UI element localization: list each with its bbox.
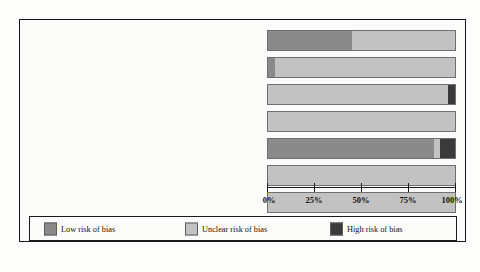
- legend-swatch-low-risk-icon: [44, 222, 57, 235]
- segment-low-risk: [268, 139, 434, 158]
- legend-label: High risk of bias: [347, 224, 403, 233]
- legend-label: Unclear risk of bias: [202, 224, 267, 233]
- axis-tick-label: 75%: [400, 195, 417, 205]
- axis-tick: [408, 183, 409, 192]
- axis-tick: [361, 183, 362, 192]
- segment-unclear-risk: [268, 112, 455, 131]
- segment-low-risk: [268, 31, 352, 50]
- axis-tick: [314, 183, 315, 192]
- segment-low-risk: [268, 58, 275, 77]
- risk-of-bias-figure: Random sequence generation(selection bia…: [0, 0, 480, 272]
- legend: Low risk of bias Unclear risk of bias Hi…: [29, 216, 457, 241]
- segment-unclear-risk: [352, 31, 455, 50]
- legend-item-high-risk[interactable]: High risk of bias: [330, 222, 403, 235]
- stacked-bar[interactable]: [267, 57, 456, 78]
- segment-high-risk: [440, 139, 455, 158]
- segment-high-risk: [448, 85, 455, 104]
- segment-unclear-risk: [275, 58, 455, 77]
- axis-tick-label: 0%: [263, 195, 276, 205]
- legend-swatch-unclear-risk-icon: [185, 222, 198, 235]
- legend-label: Low risk of bias: [61, 224, 115, 233]
- axis-tick: [455, 183, 456, 192]
- legend-swatch-high-risk-icon: [330, 222, 343, 235]
- stacked-bar[interactable]: [267, 138, 456, 159]
- axis-tick-label: 100%: [441, 195, 462, 205]
- x-axis: 0% 25% 50% 75% 100%: [267, 187, 456, 188]
- figure-frame: Random sequence generation(selection bia…: [19, 19, 466, 242]
- legend-item-unclear-risk[interactable]: Unclear risk of bias: [185, 222, 267, 235]
- legend-item-low-risk[interactable]: Low risk of bias: [44, 222, 115, 235]
- stacked-bar[interactable]: [267, 111, 456, 132]
- stacked-bar[interactable]: [267, 84, 456, 105]
- axis-tick: [267, 183, 268, 192]
- axis-tick-label: 50%: [353, 195, 370, 205]
- segment-unclear-risk: [268, 85, 448, 104]
- axis-tick-label: 25%: [306, 195, 323, 205]
- plot-area: Random sequence generation(selection bia…: [20, 20, 467, 243]
- stacked-bar[interactable]: [267, 30, 456, 51]
